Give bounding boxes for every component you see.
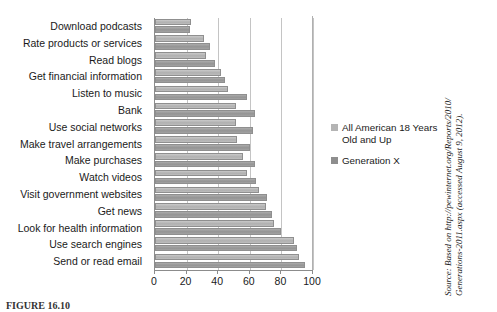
bar xyxy=(155,262,305,269)
bar-row xyxy=(155,220,313,237)
category-label: Look for health information xyxy=(0,220,148,237)
x-axis-tick-label: 100 xyxy=(303,275,321,287)
legend-swatch-icon xyxy=(331,157,338,164)
bar xyxy=(155,203,266,210)
bar xyxy=(155,77,225,84)
bar-row xyxy=(155,186,313,203)
bar xyxy=(155,136,237,143)
category-label: Visit government websites xyxy=(0,186,148,203)
bar-row xyxy=(155,18,313,35)
bar-row xyxy=(155,52,313,69)
x-axis-tick xyxy=(186,270,187,274)
chart-figure: Download podcastsRate products or servic… xyxy=(0,0,497,312)
plot-area xyxy=(154,18,313,270)
category-label: Make travel arrangements xyxy=(0,136,148,153)
bar-row xyxy=(155,236,313,253)
bar xyxy=(155,187,259,194)
x-axis-line xyxy=(154,270,312,271)
bar-row xyxy=(155,136,313,153)
bar xyxy=(155,220,274,227)
category-label: Download podcasts xyxy=(0,18,148,35)
bar xyxy=(155,103,236,110)
x-axis-tick-label: 40 xyxy=(211,275,223,287)
bar xyxy=(155,26,190,33)
bar xyxy=(155,119,236,126)
category-label: Bank xyxy=(0,102,148,119)
legend-swatch-icon xyxy=(331,124,338,131)
x-axis-tick xyxy=(280,270,281,274)
category-label: Get news xyxy=(0,203,148,220)
x-axis-tick-label: 60 xyxy=(243,275,255,287)
legend-label: All American 18 Years Old and Up xyxy=(342,122,437,146)
x-axis-tick-label: 80 xyxy=(275,275,287,287)
bar-row xyxy=(155,152,313,169)
x-axis-tick xyxy=(217,270,218,274)
x-axis-tick xyxy=(312,270,313,274)
chart-legend: All American 18 Years Old and UpGenerati… xyxy=(331,122,451,176)
bar xyxy=(155,86,228,93)
bar xyxy=(155,211,272,218)
bar xyxy=(155,170,247,177)
bar-row xyxy=(155,169,313,186)
legend-entry: Generation X xyxy=(331,155,451,167)
category-label: Make purchases xyxy=(0,152,148,169)
source-note: Source: Based on http://pewinternet.org/… xyxy=(443,96,465,296)
category-label: Listen to music xyxy=(0,85,148,102)
category-label: Watch videos xyxy=(0,169,148,186)
bar xyxy=(155,254,299,261)
bar-row xyxy=(155,119,313,136)
category-label: Get financial information xyxy=(0,68,148,85)
bar xyxy=(155,228,281,235)
category-label: Use search engines xyxy=(0,236,148,253)
x-axis-tick-label: 20 xyxy=(180,275,192,287)
bar-rows xyxy=(155,18,313,270)
bar xyxy=(155,19,191,26)
bar-row xyxy=(155,85,313,102)
bar-row xyxy=(155,35,313,52)
bar xyxy=(155,43,210,50)
bar-row xyxy=(155,253,313,270)
category-label: Use social networks xyxy=(0,119,148,136)
category-label: Read blogs xyxy=(0,52,148,69)
category-label: Rate products or services xyxy=(0,35,148,52)
bar-row xyxy=(155,68,313,85)
category-axis-labels: Download podcastsRate products or servic… xyxy=(0,18,148,270)
legend-entry: All American 18 Years Old and Up xyxy=(331,122,451,146)
bar xyxy=(155,237,294,244)
bar xyxy=(155,35,204,42)
bar xyxy=(155,127,253,134)
bar xyxy=(155,94,247,101)
x-axis-tick xyxy=(249,270,250,274)
bar-row xyxy=(155,102,313,119)
bar-row xyxy=(155,203,313,220)
bar xyxy=(155,245,297,252)
bar xyxy=(155,60,215,67)
x-axis-tick xyxy=(154,270,155,274)
bar xyxy=(155,161,255,168)
bar xyxy=(155,178,256,185)
figure-caption: FIGURE 16.10 xyxy=(6,300,70,311)
bar xyxy=(155,69,221,76)
legend-label: Generation X xyxy=(342,155,400,167)
x-axis-tick-label: 0 xyxy=(151,275,157,287)
bar xyxy=(155,153,243,160)
bar xyxy=(155,144,250,151)
bar xyxy=(155,110,255,117)
bar xyxy=(155,52,206,59)
category-label: Send or read email xyxy=(0,253,148,270)
bar xyxy=(155,194,267,201)
